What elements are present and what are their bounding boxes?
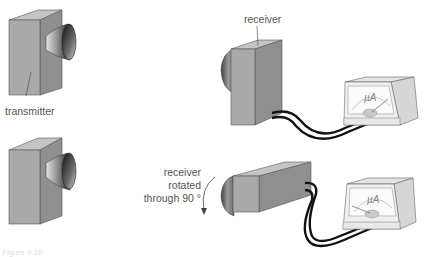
rotated-label-line1: receiver <box>164 166 202 178</box>
receiver-front-face <box>233 176 259 212</box>
receiver-front-face <box>231 49 255 125</box>
meter-pivot <box>365 210 379 218</box>
rotation-arrowhead-icon <box>201 208 207 215</box>
meter-base <box>343 222 400 229</box>
transmitter-top: transmitter <box>5 10 76 117</box>
microammeter-top: µA <box>344 77 418 125</box>
transmitter-front-face <box>9 20 40 95</box>
receiver-vertical: receiver <box>221 13 282 125</box>
microammeter-bottom: µA <box>343 178 416 229</box>
meter-unit-label: µA <box>364 92 377 103</box>
meter-unit-label: µA <box>367 194 380 205</box>
transmitter-bottom <box>9 138 76 224</box>
receiver-horn-icon <box>221 176 234 216</box>
meter-pivot <box>363 109 377 117</box>
polarization-diagram: transmitter receiver µA <box>0 0 426 257</box>
transmitter-front-face <box>9 150 40 224</box>
receiver-rotated: receiver rotated through 90 ° <box>144 162 311 216</box>
meter-base <box>344 118 400 125</box>
transmitter-horn-mouth <box>62 153 76 189</box>
rotated-label-line3: through 90 ° <box>144 192 201 204</box>
rotation-arrow-icon <box>203 177 215 210</box>
rotated-label-line2: rotated <box>168 179 201 191</box>
transmitter-label: transmitter <box>5 105 55 117</box>
diagram-canvas: transmitter receiver µA <box>0 0 426 257</box>
transmitter-horn-mouth <box>62 24 76 60</box>
figure-caption: Figure 9.10 <box>2 248 43 257</box>
receiver-label: receiver <box>244 13 282 25</box>
